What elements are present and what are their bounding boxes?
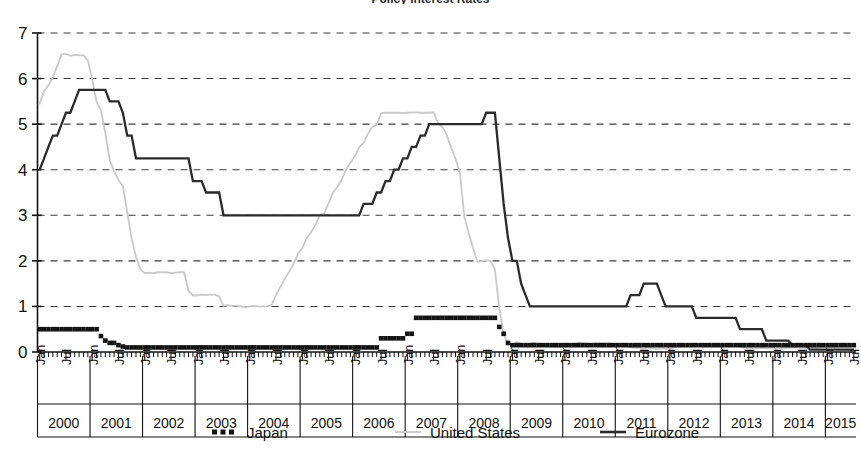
marker-japan: [269, 345, 274, 350]
marker-japan: [440, 316, 445, 321]
marker-japan: [243, 345, 248, 350]
marker-japan: [173, 345, 178, 350]
marker-japan: [817, 343, 822, 348]
marker-japan: [392, 336, 397, 341]
marker-japan: [650, 343, 655, 348]
marker-japan: [519, 343, 524, 348]
marker-japan: [212, 345, 217, 350]
marker-japan: [497, 325, 502, 330]
marker-japan: [453, 316, 458, 321]
marker-japan: [177, 345, 182, 350]
marker-japan: [681, 343, 686, 348]
series-eurozone: [40, 90, 854, 350]
legend-marker-japan: [221, 430, 226, 435]
x-year-label: 2000: [48, 415, 79, 431]
x-year-label: 2010: [573, 415, 604, 431]
marker-japan: [646, 343, 651, 348]
x-month-label: Jan: [559, 345, 573, 365]
marker-japan: [436, 316, 441, 321]
marker-japan: [103, 338, 108, 343]
x-month-label: Jul: [165, 349, 179, 365]
legend-label: United States: [430, 424, 520, 441]
marker-japan: [204, 345, 209, 350]
marker-japan: [125, 345, 130, 350]
marker-japan: [142, 345, 147, 350]
marker-japan: [501, 331, 506, 336]
marker-japan: [475, 316, 480, 321]
marker-japan: [755, 343, 760, 348]
marker-japan: [611, 343, 616, 348]
legend-label: Eurozone: [635, 424, 699, 441]
legend-marker-japan: [229, 430, 234, 435]
marker-japan: [637, 343, 642, 348]
marker-japan: [199, 345, 204, 350]
marker-japan: [423, 316, 428, 321]
marker-japan: [256, 345, 261, 350]
marker-japan: [331, 345, 336, 350]
marker-japan: [313, 345, 318, 350]
marker-japan: [852, 343, 857, 348]
x-month-label: Jan: [34, 345, 48, 365]
marker-japan: [409, 331, 414, 336]
marker-japan: [620, 343, 625, 348]
marker-japan: [528, 343, 533, 348]
marker-japan: [821, 343, 826, 348]
marker-japan: [274, 345, 279, 350]
marker-japan: [291, 345, 296, 350]
marker-japan: [471, 316, 476, 321]
y-tick-label: 5: [18, 115, 27, 134]
marker-japan: [777, 343, 782, 348]
marker-japan: [720, 343, 725, 348]
marker-japan: [55, 327, 60, 332]
marker-japan: [182, 345, 187, 350]
x-month-label: Jul: [271, 349, 285, 365]
marker-japan: [427, 316, 432, 321]
x-month-label: Jul: [113, 349, 127, 365]
x-month-label: Jan: [454, 345, 468, 365]
x-month-label: Jul: [638, 349, 652, 365]
marker-japan: [59, 327, 64, 332]
marker-japan: [514, 343, 519, 348]
y-tick-label: 2: [18, 252, 27, 271]
marker-japan: [830, 343, 835, 348]
x-month-label: Jul: [848, 349, 861, 365]
marker-japan: [773, 343, 778, 348]
marker-japan: [296, 345, 301, 350]
marker-japan: [121, 344, 126, 349]
marker-japan: [230, 345, 235, 350]
marker-japan: [186, 345, 191, 350]
x-month-label: Jan: [402, 345, 416, 365]
marker-japan: [768, 343, 773, 348]
marker-japan: [803, 343, 808, 348]
line-united-states: [40, 54, 854, 349]
x-year-label: 2006: [363, 415, 394, 431]
marker-japan: [51, 327, 56, 332]
marker-japan: [694, 343, 699, 348]
marker-japan: [676, 343, 681, 348]
marker-japan: [164, 345, 169, 350]
chart-container: Policy Interest Rates 01234567 JanJulJan…: [0, 0, 861, 459]
marker-japan: [843, 343, 848, 348]
marker-japan: [86, 327, 91, 332]
marker-japan: [366, 345, 371, 350]
marker-japan: [99, 334, 104, 339]
marker-japan: [374, 345, 379, 350]
marker-japan: [348, 345, 353, 350]
marker-japan: [550, 343, 555, 348]
marker-japan: [812, 343, 817, 348]
marker-japan: [388, 336, 393, 341]
x-year-label: 2014: [784, 415, 815, 431]
marker-japan: [615, 343, 620, 348]
marker-japan: [444, 316, 449, 321]
marker-japan: [405, 331, 410, 336]
marker-japan: [628, 343, 633, 348]
x-month-label: Jul: [376, 349, 390, 365]
marker-japan: [506, 341, 511, 346]
marker-japan: [834, 343, 839, 348]
y-tick-label: 0: [18, 343, 27, 362]
marker-japan: [808, 343, 813, 348]
marker-japan: [707, 343, 712, 348]
marker-japan: [252, 345, 257, 350]
marker-japan: [641, 343, 646, 348]
marker-japan: [790, 343, 795, 348]
